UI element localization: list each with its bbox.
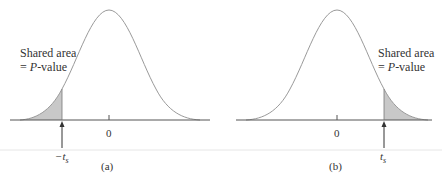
annotation-b-line2: = P-value — [378, 60, 434, 74]
annotation-a-line2: = P-value — [20, 60, 76, 74]
caption-b: (b) — [329, 159, 342, 173]
shaded-right-tail — [384, 89, 428, 120]
critical-label-b: ts — [380, 149, 386, 168]
panel-b — [221, 10, 442, 150]
critical-label-a: −ts — [55, 149, 69, 168]
arrowhead-b — [382, 121, 387, 127]
annotation-b: Shared area = P-value — [378, 46, 434, 74]
zero-label-b: 0 — [334, 126, 340, 140]
zero-label-a: 0 — [106, 126, 112, 140]
caption-a: (a) — [101, 159, 113, 173]
annotation-a: Shared area = P-value — [20, 46, 76, 74]
annotation-a-line1: Shared area — [20, 46, 76, 60]
arrowhead-a — [60, 121, 65, 127]
annotation-b-line1: Shared area — [378, 46, 434, 60]
shaded-left-tail — [20, 89, 62, 120]
